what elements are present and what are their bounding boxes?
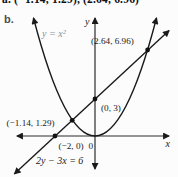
point-label-0-3: (0, 3)	[101, 103, 121, 113]
x-axis-label: x	[165, 138, 171, 149]
point-dot-neg1.14-1.29	[70, 118, 75, 123]
point-dot-2.64-6.96	[145, 48, 150, 53]
point-label-2.64-6.96: (2.64, 6.96)	[91, 36, 134, 46]
line-equation-label: 2y − 3x = 6	[36, 155, 83, 166]
point-label-neg1.14-1.29: (−1.14, 1.29)	[7, 118, 55, 128]
line-curve	[15, 31, 170, 174]
graph-canvas: (2.64, 6.96) (0, 3) (−1.14, 1.29) (−2, 0…	[0, 0, 178, 177]
point-dot-0-3	[93, 97, 98, 102]
origin-label: 0	[89, 141, 94, 151]
point-label-neg2-0: (−2, 0)	[59, 141, 84, 151]
textbook-figure: a. (−1.14, 1.29), (2.64, 6.96) b. (2.64,…	[0, 0, 178, 177]
point-dot-neg2-0	[53, 134, 58, 139]
parabola-equation-label: y = x²	[41, 28, 67, 39]
y-axis-label: y	[84, 16, 90, 27]
